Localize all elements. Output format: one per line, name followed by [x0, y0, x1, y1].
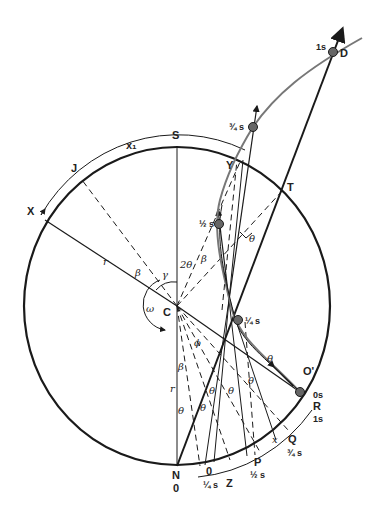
- label-D: D: [340, 47, 348, 59]
- angle-beta-right: β: [200, 253, 207, 264]
- rotating-frame-path: [217, 38, 362, 392]
- label-J: J: [71, 162, 77, 174]
- position-dot-D: [329, 48, 338, 57]
- arc-x1: [41, 135, 245, 215]
- label-P: P: [254, 456, 261, 468]
- position-dot-half: [215, 220, 224, 229]
- time-P: ½ s: [250, 470, 265, 480]
- label-Y: Y: [226, 159, 234, 171]
- angle-two-theta: 2θ: [179, 259, 192, 270]
- angle-theta-2: θ: [200, 402, 206, 413]
- coriolis-diagram: S J X x₁ T Y D C N O' R Q P Z 0 x r r 1s…: [0, 0, 380, 507]
- angle-phi: ϕ: [194, 337, 201, 348]
- arrow-three-quarter: [229, 106, 257, 300]
- label-S: S: [172, 129, 179, 141]
- angle-theta-T: θ: [249, 233, 255, 244]
- radius-C-X: [45, 220, 177, 306]
- time-Q: ¾ s: [287, 448, 302, 458]
- angle-omega: ω: [146, 303, 154, 314]
- time-three-quarter: ¾ s: [229, 122, 244, 132]
- label-x: x: [272, 434, 278, 445]
- time-N: 0: [173, 482, 179, 494]
- time-R: 1s: [313, 414, 323, 424]
- angle-theta-6: θ: [267, 353, 273, 364]
- time-O: ¼ s: [203, 480, 218, 490]
- angle-theta-5: θ: [248, 375, 254, 386]
- position-dot-three-quarter: [249, 123, 258, 132]
- label-C: C: [163, 306, 171, 318]
- angle-gamma: γ: [162, 269, 168, 280]
- angle-theta-3: θ: [209, 385, 215, 396]
- label-Oprime: O': [303, 365, 315, 377]
- label-r-lower: r: [170, 383, 176, 394]
- label-Q: Q: [288, 433, 297, 445]
- label-Z: Z: [226, 477, 233, 489]
- label-N: N: [172, 469, 180, 481]
- time-quarter: ¼ s: [245, 316, 260, 326]
- position-dot-Oprime: [296, 388, 305, 397]
- label-X: X: [27, 205, 35, 217]
- label-x1: x₁: [126, 139, 137, 151]
- label-T: T: [287, 181, 294, 193]
- time-half: ½ s: [199, 219, 214, 229]
- angle-beta-left: β: [134, 267, 141, 278]
- time-D: 1s: [316, 42, 326, 52]
- time-Oprime: 0s: [313, 390, 323, 400]
- dashed-C-J: [82, 180, 177, 306]
- angle-beta-lower: β: [177, 361, 184, 372]
- angle-theta-1: θ: [178, 405, 184, 416]
- angle-theta-4: θ: [228, 385, 234, 396]
- label-O: 0: [206, 465, 212, 477]
- position-dot-quarter: [234, 316, 243, 325]
- label-R: R: [313, 400, 321, 412]
